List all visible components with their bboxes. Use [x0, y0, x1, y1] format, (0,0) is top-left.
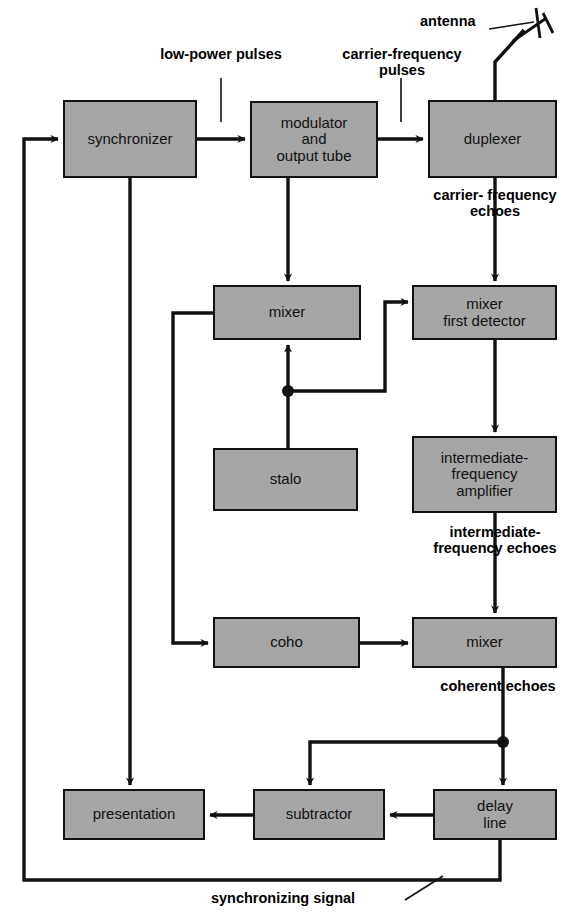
box-mixer-top-label: mixer	[267, 304, 308, 320]
box-subtractor[interactable]: subtractor	[253, 789, 385, 840]
label-intermediate-frequency-echoes-line3: echoes	[507, 540, 557, 556]
radar-block-diagram: synchronizer modulator and output tube d…	[0, 0, 578, 918]
label-carrier-frequency-pulses-line1: carrier-frequency	[342, 46, 461, 62]
label-low-power-pulses: low-power pulses	[156, 47, 286, 63]
label-carrier-frequency-echoes-line1: carrier-	[433, 187, 483, 203]
box-duplexer-label: duplexer	[462, 131, 524, 147]
junction-dot-stalo	[282, 385, 294, 397]
label-coherent-echoes: coherent echoes	[437, 679, 559, 695]
label-low-power-pulses-line2: pulses	[236, 46, 282, 62]
box-stalo[interactable]: stalo	[213, 448, 358, 511]
label-intermediate-frequency-echoes-line1: intermediate-	[449, 524, 540, 540]
label-carrier-frequency-pulses: carrier-frequency pulses	[325, 47, 479, 79]
label-carrier-frequency-pulses-line2: pulses	[379, 62, 425, 78]
box-mixer-first-detector[interactable]: mixer first detector	[412, 285, 557, 340]
box-modulator-label-line2: and	[299, 131, 328, 147]
label-coherent-echoes-line2: echoes	[506, 678, 556, 694]
box-presentation[interactable]: presentation	[63, 789, 205, 840]
box-coho-label: coho	[268, 634, 305, 650]
box-modulator-label-line1: modulator	[279, 115, 350, 131]
box-if-amplifier-label-line2: frequency	[450, 466, 520, 482]
box-mixer-first-detector-label-line2: first detector	[441, 313, 528, 329]
box-mixer-bottom-label: mixer	[464, 634, 505, 650]
label-antenna-text: antenna	[420, 13, 476, 29]
box-subtractor-label: subtractor	[284, 806, 355, 822]
label-intermediate-frequency-echoes-line2: frequency	[433, 540, 502, 556]
box-mixer-bottom[interactable]: mixer	[412, 617, 557, 668]
wire-mixer-to-coho	[173, 313, 213, 643]
box-modulator-and-output-tube[interactable]: modulator and output tube	[250, 101, 378, 178]
box-synchronizer[interactable]: synchronizer	[63, 100, 197, 178]
wire-duplexer-to-antenna	[495, 30, 524, 100]
box-delay-line[interactable]: delay line	[433, 789, 557, 840]
label-carrier-frequency-echoes-line2: frequency	[487, 187, 556, 203]
box-duplexer[interactable]: duplexer	[428, 100, 557, 178]
box-if-amplifier-label-line3: amplifier	[454, 483, 515, 499]
label-carrier-frequency-echoes-line3: echoes	[470, 203, 520, 219]
wire-coherent-echoes-branch-to-subtractor	[310, 742, 503, 785]
box-coho[interactable]: coho	[213, 617, 360, 668]
leader-antenna	[489, 22, 534, 29]
box-synchronizer-label: synchronizer	[85, 131, 174, 147]
label-synchronizing-signal-text: synchronizing signal	[211, 890, 355, 906]
label-carrier-frequency-echoes: carrier- frequency echoes	[432, 188, 558, 220]
label-antenna: antenna	[420, 13, 476, 29]
box-mixer-top[interactable]: mixer	[213, 285, 361, 340]
box-mixer-first-detector-label-line1: mixer	[464, 296, 505, 312]
label-coherent-echoes-line1: coherent	[440, 678, 501, 694]
box-if-amplifier-label-line1: intermediate-	[439, 450, 531, 466]
box-intermediate-frequency-amplifier[interactable]: intermediate- frequency amplifier	[412, 436, 557, 513]
box-presentation-label: presentation	[91, 806, 178, 822]
label-low-power-pulses-line1: low-power	[160, 46, 232, 62]
label-intermediate-frequency-echoes: intermediate- frequency echoes	[424, 525, 566, 557]
box-modulator-label-line3: output tube	[274, 148, 353, 164]
box-delay-line-label-line1: delay	[475, 798, 515, 814]
box-stalo-label: stalo	[268, 471, 304, 487]
label-synchronizing-signal: synchronizing signal	[158, 891, 408, 907]
box-delay-line-label-line2: line	[481, 815, 508, 831]
junction-dot-coherent-echoes	[497, 736, 509, 748]
